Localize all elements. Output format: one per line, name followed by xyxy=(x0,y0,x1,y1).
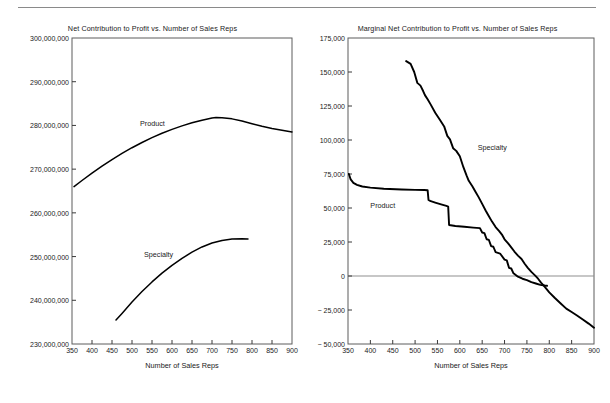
y-axis-tick-label: − 25,000 xyxy=(318,307,345,314)
x-axis-title: Number of Sales Reps xyxy=(434,361,507,370)
x-axis-tick-label: 900 xyxy=(588,347,600,354)
figure-page: Net Contribution to Profit vs. Number of… xyxy=(0,0,610,403)
y-axis-tick-label: 240,000,000 xyxy=(30,297,69,304)
y-axis-tick-label: 75,000 xyxy=(324,171,345,178)
x-axis-tick-label: 550 xyxy=(432,347,444,354)
x-axis-tick-label: 600 xyxy=(454,347,466,354)
y-axis-tick-label: 290,000,000 xyxy=(30,78,69,85)
x-axis-tick-label: 750 xyxy=(226,347,238,354)
x-axis-tick-label: 900 xyxy=(286,347,298,354)
y-axis-tick-label: 230,000,000 xyxy=(30,341,69,348)
y-axis-tick-label: 250,000,000 xyxy=(30,253,69,260)
chart-panel-net-contribution: Net Contribution to Profit vs. Number of… xyxy=(0,0,305,403)
x-axis-tick-label: 450 xyxy=(106,347,118,354)
x-axis-tick-label: 400 xyxy=(86,347,98,354)
x-axis-tick-label: 700 xyxy=(206,347,218,354)
y-axis-tick-label: 280,000,000 xyxy=(30,122,69,129)
x-axis-tick-label: 350 xyxy=(66,347,78,354)
x-axis-tick-label: 350 xyxy=(342,347,354,354)
x-axis-tick-label: 850 xyxy=(266,347,278,354)
x-axis-tick-label: 800 xyxy=(543,347,555,354)
series-label-product: Product xyxy=(140,119,165,128)
y-axis-tick-label: 260,000,000 xyxy=(30,209,69,216)
y-axis-tick-label: 25,000 xyxy=(324,239,345,246)
x-axis-tick-label: 850 xyxy=(566,347,578,354)
x-axis-tick-label: 700 xyxy=(499,347,511,354)
x-axis-title: Number of Sales Reps xyxy=(145,361,218,370)
chart-panel-marginal-net-contribution: Marginal Net Contribution to Profit vs. … xyxy=(305,0,610,403)
x-axis-tick-label: 400 xyxy=(365,347,377,354)
series-label-specialty: Specialty xyxy=(144,250,173,259)
y-axis-tick-label: 270,000,000 xyxy=(30,166,69,173)
plot-area-marginal-net-contribution xyxy=(305,0,610,403)
y-axis-tick-label: 300,000,000 xyxy=(30,35,69,42)
x-axis-tick-label: 450 xyxy=(387,347,399,354)
y-axis-tick-label: 0 xyxy=(341,273,345,280)
series-label-product: Product xyxy=(370,201,395,210)
y-axis-tick-label: 150,000 xyxy=(320,69,345,76)
y-axis-tick-label: 175,000 xyxy=(320,35,345,42)
y-axis-tick-label: 50,000 xyxy=(324,205,345,212)
x-axis-tick-label: 600 xyxy=(166,347,178,354)
y-axis-tick-label: 125,000 xyxy=(320,103,345,110)
x-axis-tick-label: 500 xyxy=(126,347,138,354)
x-axis-tick-label: 750 xyxy=(521,347,533,354)
x-axis-tick-label: 650 xyxy=(186,347,198,354)
y-axis-tick-label: 100,000 xyxy=(320,137,345,144)
series-label-specialty: Specialty xyxy=(478,143,507,152)
x-axis-tick-label: 500 xyxy=(409,347,421,354)
y-axis-tick-label: − 50,000 xyxy=(318,341,345,348)
x-axis-tick-label: 550 xyxy=(146,347,158,354)
x-axis-tick-label: 650 xyxy=(476,347,488,354)
x-axis-tick-label: 800 xyxy=(246,347,258,354)
